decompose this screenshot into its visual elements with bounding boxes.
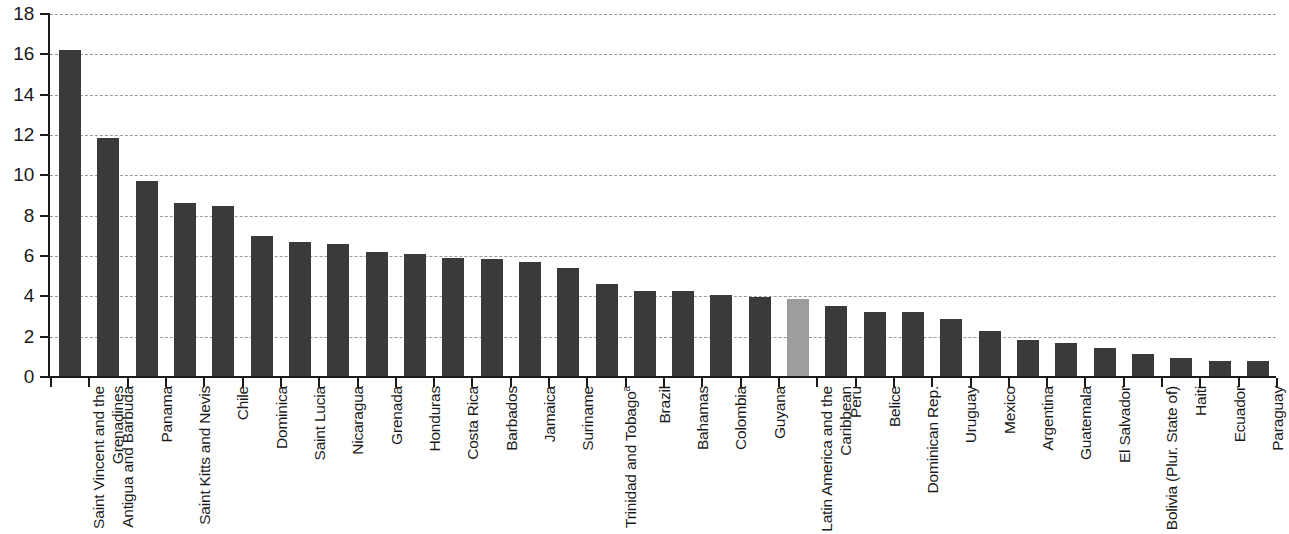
x-axis-category-label: Belice — [884, 386, 906, 534]
x-axis-tick-mark — [1161, 378, 1163, 387]
plot-area — [50, 14, 1276, 377]
gridline — [50, 135, 1276, 136]
bar — [825, 306, 847, 377]
y-axis-tick-label: 0 — [0, 367, 34, 386]
x-axis-category-label: Costa Rica — [462, 386, 484, 534]
x-axis-category-label: Uruguay — [960, 386, 982, 534]
bar — [366, 252, 388, 377]
y-axis-tick-label: 10 — [0, 165, 34, 184]
x-axis-category-label: Ecuador — [1229, 386, 1251, 534]
x-axis-tick-mark — [893, 378, 895, 387]
x-axis-tick-mark — [586, 378, 588, 387]
y-axis-tick-mark — [40, 94, 50, 96]
x-axis-category-label: Guyana — [769, 386, 791, 534]
x-axis-category-label: Jamaica — [539, 386, 561, 534]
x-axis-category-label: Suriname — [577, 386, 599, 534]
y-axis-tick-mark — [40, 336, 50, 338]
x-axis-category-label: Grenada — [386, 386, 408, 534]
bar — [327, 244, 349, 377]
x-axis-tick-mark — [88, 378, 90, 387]
bar — [1132, 354, 1154, 377]
bar — [787, 299, 809, 377]
gridline — [50, 95, 1276, 96]
x-axis-category-label: Saint Lucia — [309, 386, 331, 534]
y-axis-tick-mark — [40, 295, 50, 297]
x-axis-tick-mark — [242, 378, 244, 387]
y-axis-tick-label: 14 — [0, 85, 34, 104]
x-axis-tick-mark — [395, 378, 397, 387]
x-axis-tick-mark — [433, 378, 435, 387]
bar — [519, 262, 541, 377]
x-axis-tick-mark — [1008, 378, 1010, 387]
bar — [481, 259, 503, 377]
bar — [1055, 343, 1077, 377]
y-axis-tick-mark — [40, 53, 50, 55]
bar — [174, 203, 196, 377]
y-axis-tick-mark — [40, 255, 50, 257]
x-axis-tick-mark — [855, 378, 857, 387]
x-axis-category-label: Bahamas — [692, 386, 714, 534]
bar — [442, 258, 464, 377]
x-axis-tick-mark — [280, 378, 282, 387]
x-axis-category-label: Paraguay — [1267, 386, 1289, 534]
y-axis-tick-mark — [40, 174, 50, 176]
gridline — [50, 175, 1276, 176]
bar — [404, 254, 426, 377]
x-axis-category-label: Haiti — [1190, 386, 1212, 534]
y-axis-tick-label: 4 — [0, 286, 34, 305]
x-axis-category-label: Argentina — [1037, 386, 1059, 534]
x-axis-tick-mark — [318, 378, 320, 387]
x-axis-tick-mark — [50, 378, 52, 387]
x-axis-tick-mark — [778, 378, 780, 387]
y-axis-tick-mark — [40, 13, 50, 15]
bar — [97, 138, 119, 377]
y-axis-tick-label: 8 — [0, 206, 34, 225]
x-axis-tick-mark — [357, 378, 359, 387]
bar — [1170, 358, 1192, 377]
bar — [1094, 348, 1116, 377]
bar — [902, 312, 924, 377]
bar — [1247, 361, 1269, 377]
gridline — [50, 14, 1276, 15]
x-axis-tick-mark — [970, 378, 972, 387]
bar — [1209, 361, 1231, 377]
bar — [251, 236, 273, 377]
x-axis-tick-mark — [1084, 378, 1086, 387]
bar — [1017, 340, 1039, 377]
bar — [672, 291, 694, 377]
x-axis-category-label: El Salvador — [1114, 386, 1136, 534]
x-axis-tick-mark — [663, 378, 665, 387]
x-axis-tick-mark — [1199, 378, 1201, 387]
x-axis-category-label: Honduras — [424, 386, 446, 534]
x-axis-tick-mark — [1276, 378, 1278, 387]
x-axis-category-label: Dominica — [271, 386, 293, 534]
x-axis-tick-mark — [510, 378, 512, 387]
x-axis-tick-mark — [165, 378, 167, 387]
y-axis-tick-label: 12 — [0, 125, 34, 144]
x-axis-category-label: Mexico — [999, 386, 1021, 534]
y-axis-tick-mark — [40, 376, 50, 378]
bar — [634, 291, 656, 377]
x-axis-tick-mark — [931, 378, 933, 387]
bar — [864, 312, 886, 377]
bar — [979, 331, 1001, 377]
y-axis-tick-label: 2 — [0, 327, 34, 346]
bar — [596, 284, 618, 377]
x-axis-category-label: Antigua and Barbuda — [117, 386, 139, 534]
x-axis-category-label: Brazil — [654, 386, 676, 534]
x-axis-tick-mark — [1238, 378, 1240, 387]
x-axis-tick-mark — [625, 378, 627, 387]
y-axis-tick-mark — [40, 134, 50, 136]
x-axis-category-label: Dominican Rep. — [922, 386, 944, 534]
x-axis-tick-mark — [740, 378, 742, 387]
bar — [557, 268, 579, 377]
x-axis-tick-mark — [701, 378, 703, 387]
x-axis-category-label: Peru — [845, 386, 867, 534]
bar — [59, 50, 81, 377]
x-axis-tick-mark — [816, 378, 818, 387]
bar — [212, 206, 234, 377]
bar — [940, 319, 962, 377]
x-axis-tick-mark — [203, 378, 205, 387]
y-axis-tick-mark — [40, 215, 50, 217]
